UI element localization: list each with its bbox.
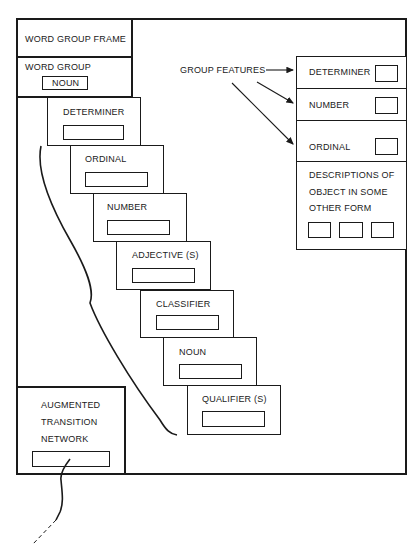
atn-link-dashed — [33, 520, 56, 544]
connector-lines — [0, 0, 420, 555]
slot-sequence-curve — [40, 146, 177, 435]
arrow-icon — [232, 70, 293, 144]
atn-link-curve — [56, 459, 70, 520]
